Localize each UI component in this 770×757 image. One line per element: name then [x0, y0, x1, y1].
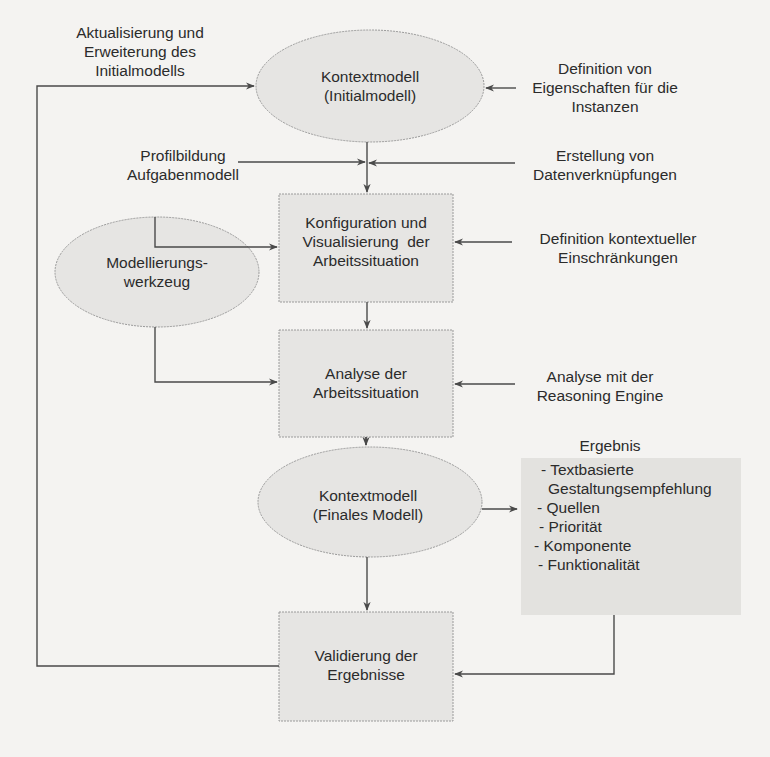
analysis-label: Analyse der Arbeitssituation: [313, 364, 419, 402]
result-list: - Textbasierte Gestaltungsempfehlung - Q…: [537, 460, 712, 574]
result-item: - Komponente: [534, 536, 712, 555]
result-item: - Quellen: [537, 498, 712, 517]
modeling-tool-label: Modellierungs- werkzeug: [106, 253, 208, 291]
result-to-validation-arrow: [455, 615, 614, 674]
profiling-label: Profilbildung Aufgabenmodell: [118, 146, 248, 184]
result-item: - Priorität: [537, 517, 712, 536]
result-title: Ergebnis: [560, 436, 660, 455]
define-properties-label: Definition von Eigenschaften für die Ins…: [515, 59, 695, 116]
reasoning-label: Analyse mit der Reasoning Engine: [520, 367, 680, 405]
final-model-label: Kontextmodell (Finales Modell): [313, 486, 423, 524]
tool-to-analysis-arrow: [155, 327, 277, 382]
contextual-constraints-label: Definition kontextueller Einschränkungen: [518, 229, 718, 267]
result-item: - Textbasierte: [537, 460, 712, 479]
initial-model-label: Kontextmodell (Initialmodell): [321, 67, 419, 105]
result-item: Gestaltungsempfehlung: [537, 479, 712, 498]
configuration-label: Konfiguration und Visualisierung der Arb…: [302, 213, 429, 270]
result-item: - Funktionalität: [537, 555, 712, 574]
update-extension-label: Aktualisierung und Erweiterung des Initi…: [70, 23, 210, 80]
data-links-label: Erstellung von Datenverknüpfungen: [515, 146, 695, 184]
validation-label: Validierung der Ergebnisse: [314, 646, 417, 684]
